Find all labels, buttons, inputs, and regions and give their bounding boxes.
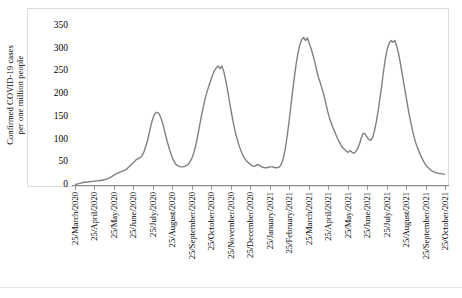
x-tick-label: 25/May/2021 <box>343 192 352 238</box>
x-tick-label: 25/June/2020 <box>129 192 138 238</box>
x-tick-mark <box>328 186 329 190</box>
y-axis-tick-labels: 0 50 100 150 200 250 300 350 <box>30 0 72 195</box>
x-tick-label: 25/October/2021 <box>441 192 450 250</box>
x-tick-label: 25/January/2021 <box>265 192 274 249</box>
x-tick-mark <box>153 186 154 190</box>
y-tick-label: 300 <box>54 44 68 54</box>
x-tick-mark <box>387 186 388 190</box>
x-tick-label: 25/July/2020 <box>149 192 158 237</box>
x-tick-label: 25/April/2020 <box>90 192 99 241</box>
x-tick-label: 25/June/2021 <box>363 192 372 238</box>
x-tick-label: 25/February/2021 <box>285 192 294 254</box>
x-tick-label: 25/July/2021 <box>382 192 391 237</box>
x-tick-mark <box>270 186 271 190</box>
y-tick-label: 0 <box>63 180 68 190</box>
x-tick-label: 25/October/2020 <box>207 192 216 250</box>
x-tick-label: 25/September/2021 <box>421 192 430 259</box>
x-tick-mark <box>231 186 232 190</box>
y-axis-title-line-1: Confirmed COVID-19 cases <box>5 45 15 145</box>
x-tick-label: 25/December/2020 <box>246 192 255 258</box>
figure-bottom-rule <box>0 287 462 288</box>
x-tick-mark <box>406 186 407 190</box>
y-axis-title: Confirmed COVID-19 cases per one million… <box>0 0 30 190</box>
x-tick-label: 25/April/2021 <box>324 192 333 241</box>
y-tick-label: 250 <box>54 67 68 77</box>
x-tick-label: 25/November/2020 <box>226 192 235 259</box>
y-tick-label: 350 <box>54 21 68 31</box>
x-tick-mark <box>289 186 290 190</box>
x-tick-mark <box>445 186 446 190</box>
x-tick-mark <box>75 186 76 190</box>
plot-area <box>75 20 445 186</box>
x-tick-mark <box>94 186 95 190</box>
x-tick-mark <box>192 186 193 190</box>
x-tick-label: 25/March/2021 <box>304 192 313 245</box>
x-tick-mark <box>211 186 212 190</box>
covid-cases-line-chart: Confirmed COVID-19 cases per one million… <box>0 0 462 298</box>
x-tick-label: 25/May/2020 <box>110 192 119 238</box>
x-tick-label: 25/August/2021 <box>402 192 411 247</box>
x-tick-mark <box>348 186 349 190</box>
x-tick-mark <box>426 186 427 190</box>
data-series-line <box>75 20 445 186</box>
y-tick-label: 150 <box>54 112 68 122</box>
y-tick-label: 100 <box>54 135 68 145</box>
y-tick-label: 200 <box>54 89 68 99</box>
x-tick-mark <box>172 186 173 190</box>
y-tick-label: 50 <box>59 158 69 168</box>
x-axis-tick-labels: 25/March/202025/April/202025/May/202025/… <box>75 192 445 292</box>
x-tick-mark <box>133 186 134 190</box>
x-tick-mark <box>250 186 251 190</box>
x-tick-mark <box>114 186 115 190</box>
x-tick-mark <box>309 186 310 190</box>
x-tick-label: 25/March/2020 <box>71 192 80 245</box>
x-tick-mark <box>367 186 368 190</box>
y-axis-title-line-2: per one million people <box>15 45 25 145</box>
x-tick-label: 25/September/2020 <box>188 192 197 259</box>
x-tick-label: 25/August/2020 <box>168 192 177 247</box>
